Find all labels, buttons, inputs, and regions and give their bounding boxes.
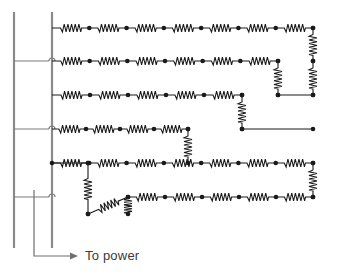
vres-left-r5-down: [84, 163, 92, 214]
resistor-row5-4: [164, 159, 201, 167]
junction-node: [311, 127, 316, 132]
junction-node: [311, 195, 316, 200]
circuit-diagram-canvas: To power: [0, 0, 339, 277]
resistor-row2-2: [90, 57, 128, 65]
junction-node: [273, 26, 278, 31]
junction-node: [86, 212, 91, 217]
vres-r4-r5-mid: [184, 129, 192, 163]
junction-node: [124, 26, 129, 31]
bus-link-group: [14, 58, 55, 197]
to-power-label: To power: [85, 248, 140, 263]
junction-node: [311, 26, 316, 31]
vres-r3-r4-mid: [238, 95, 246, 129]
resistor-row1-5: [201, 24, 238, 32]
junction-node: [163, 59, 168, 64]
dres-lower-left: [88, 197, 128, 214]
junction-node: [276, 93, 281, 98]
resistor-row5-2: [89, 159, 126, 167]
junction-node: [126, 212, 131, 217]
junction-node: [126, 93, 131, 98]
resistor-row1-3: [127, 24, 164, 32]
junction-node: [186, 161, 191, 166]
junction-node: [164, 93, 169, 98]
resistor-row1-1: [52, 24, 89, 32]
junction-node: [87, 59, 92, 64]
resistor-row3-3: [128, 91, 166, 99]
resistor-row2-5: [203, 57, 241, 65]
resistor-row2-3: [127, 57, 165, 65]
junction-node: [311, 93, 316, 98]
to-power-annotation: To power: [34, 190, 140, 263]
resistor-row2-1: [52, 57, 90, 65]
resistor-row4-3: [120, 125, 154, 133]
junction-node: [199, 26, 204, 31]
junction-node: [238, 59, 243, 64]
resistor-row6-4: [239, 193, 276, 201]
resistor-row3-5: [204, 91, 242, 99]
resistor-row1-4: [164, 24, 201, 32]
resistor-row1-2: [89, 24, 126, 32]
resistor-row5-6: [238, 159, 275, 167]
arrow-head-icon: [70, 252, 78, 259]
junction-node: [84, 127, 89, 132]
node-dot-group: [50, 26, 316, 217]
junction-node: [125, 59, 130, 64]
junction-node: [311, 59, 316, 64]
junction-node: [86, 161, 91, 166]
junction-node: [152, 127, 157, 132]
junction-node: [126, 195, 131, 200]
resistor-row4-1: [52, 125, 86, 133]
resistor-row2-4: [165, 57, 203, 65]
junction-node: [200, 195, 205, 200]
junction-node: [87, 26, 92, 31]
junction-node: [273, 161, 278, 166]
junction-node: [200, 59, 205, 64]
junction-node: [240, 127, 245, 132]
resistor-row6-3: [202, 193, 239, 201]
vres-r2-r3-mid: [274, 61, 282, 95]
resistor-row6-2: [165, 193, 202, 201]
resistor-row5-7: [276, 159, 313, 167]
junction-node: [186, 127, 191, 132]
resistor-row5-5: [201, 159, 238, 167]
resistor-row3-1: [52, 91, 90, 99]
resistor-row4-4: [154, 125, 188, 133]
junction-node: [237, 195, 242, 200]
junction-node: [236, 26, 241, 31]
junction-node: [240, 93, 245, 98]
junction-node: [88, 93, 93, 98]
junction-node: [124, 161, 129, 166]
junction-node: [202, 93, 207, 98]
row-wire-group: [52, 24, 313, 201]
bus-bar-group: [14, 12, 52, 248]
resistor-row2-6: [240, 57, 278, 65]
junction-node: [274, 195, 279, 200]
resistor-row1-6: [238, 24, 275, 32]
junction-node: [199, 161, 204, 166]
vres-left-r6-down: [124, 197, 132, 214]
resistor-row6-1: [128, 193, 165, 201]
resistor-row1-7: [276, 24, 313, 32]
junction-node: [118, 127, 123, 132]
vres-right-r2-r3: [309, 61, 317, 95]
resistor-ladder-schematic: To power: [0, 0, 339, 277]
resistor-row6-5: [276, 193, 313, 201]
resistor-row3-4: [166, 91, 204, 99]
junction-node: [163, 195, 168, 200]
junction-node: [236, 161, 241, 166]
junction-node: [50, 161, 55, 166]
resistor-row5-3: [127, 159, 164, 167]
junction-node: [162, 26, 167, 31]
junction-node: [311, 161, 316, 166]
vres-right-r1-r2: [309, 28, 317, 61]
vertical-resistor-group: [84, 28, 317, 214]
resistor-row4-2: [86, 125, 120, 133]
diagonal-resistor-group: [88, 197, 128, 214]
resistor-row3-2: [90, 91, 128, 99]
vres-right-r5-r6: [309, 163, 317, 197]
junction-node: [276, 59, 281, 64]
junction-node: [162, 161, 167, 166]
